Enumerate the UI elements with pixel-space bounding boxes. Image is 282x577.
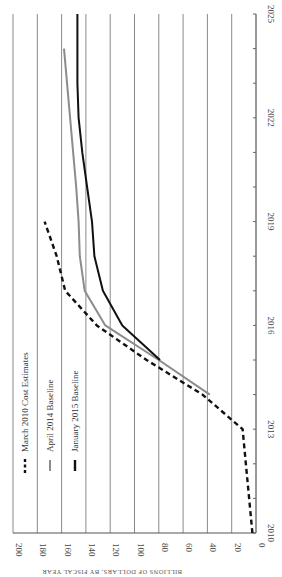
legend: March 2010 Cost Estimates April 2014 Bas… — [20, 352, 80, 473]
year-tick-label: 2022 — [266, 109, 276, 127]
value-tick-label: 80 — [160, 543, 170, 553]
value-tick-label: 120 — [111, 543, 121, 557]
legend-label: January 2015 Baseline — [70, 371, 80, 452]
legend-label: April 2014 Baseline — [45, 380, 55, 453]
value-tick-label: 140 — [87, 543, 97, 557]
legend-item-march-2010: March 2010 Cost Estimates — [20, 352, 30, 473]
legend-item-january-2015: January 2015 Baseline — [70, 371, 80, 471]
year-tick-label: 2016 — [266, 316, 276, 335]
value-tick-label: 100 — [136, 543, 146, 557]
gridlines — [13, 14, 256, 533]
axis-caption: BILLIONS OF DOLLARS, BY FISCAL YEAR — [42, 569, 182, 576]
value-axis-labels: 020406080100120140160180200 — [14, 543, 267, 557]
value-tick-label: 0 — [257, 543, 267, 548]
value-tick-label: 20 — [233, 543, 243, 553]
year-tick-label: 2025 — [266, 5, 276, 24]
legend-label: March 2010 Cost Estimates — [20, 352, 30, 452]
cost-estimate-chart: 020406080100120140160180200 201020132016… — [0, 0, 282, 577]
year-tick-label: 2013 — [266, 420, 276, 439]
legend-item-april-2014: April 2014 Baseline — [45, 380, 55, 472]
value-tick-label: 60 — [184, 543, 194, 553]
year-axis — [253, 14, 256, 533]
value-tick-label: 160 — [63, 543, 73, 557]
value-tick-label: 200 — [14, 543, 24, 557]
year-tick-label: 2019 — [266, 213, 276, 232]
value-tick-label: 180 — [38, 543, 48, 557]
year-tick-label: 2010 — [266, 524, 276, 543]
value-tick-label: 40 — [208, 543, 218, 553]
year-axis-labels: 201020132016201920222025 — [266, 5, 276, 543]
data-series — [45, 14, 253, 533]
series-line-2 — [77, 14, 160, 360]
